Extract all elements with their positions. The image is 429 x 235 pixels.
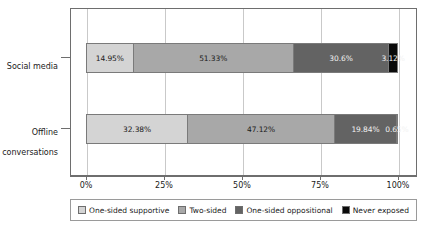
bar-value-label: 14.95% <box>96 54 124 63</box>
legend-swatch-icon <box>342 206 350 214</box>
legend-label: One-sided oppositional <box>246 206 332 215</box>
bar-segment-social-media-one-sided-supportive[interactable]: 14.95% <box>86 43 133 73</box>
y-tick-mark-offline <box>61 128 70 129</box>
bar-segment-social-media-one-sided-oppositional[interactable]: 30.6% <box>293 43 388 73</box>
legend-swatch-icon <box>178 206 186 214</box>
y-tick-mark-social-media <box>61 57 70 58</box>
x-tick-mark-50 <box>242 176 243 180</box>
x-tick-label-25: 25% <box>155 181 173 190</box>
gridline-100 <box>399 9 400 175</box>
legend-label: Never exposed <box>353 206 409 215</box>
bar-value-label: 0.65% <box>385 125 408 134</box>
x-tick-mark-100 <box>398 176 399 180</box>
gridline-50 <box>243 9 244 175</box>
bar-value-label: 30.6% <box>329 54 352 63</box>
legend-item-never-exposed[interactable]: Never exposed <box>342 206 409 215</box>
legend-label: One-sided supportive <box>89 206 169 215</box>
bar-row-offline-conversations[interactable]: 32.38% 47.12% 19.84% 0.65% <box>86 114 398 144</box>
x-tick-label-0: 0% <box>80 181 93 190</box>
legend-label: Two-sided <box>189 206 226 215</box>
x-tick-label-75: 75% <box>311 181 329 190</box>
bar-segment-offline-one-sided-supportive[interactable]: 32.38% <box>86 114 187 144</box>
bar-segment-social-media-never-exposed[interactable]: 3.12% <box>388 43 398 73</box>
bar-value-label: 51.33% <box>199 54 227 63</box>
bar-segment-offline-never-exposed[interactable]: 0.65% <box>396 114 398 144</box>
bar-value-label: 19.84% <box>351 125 379 134</box>
stacked-bar-chart: Social media Offline conversations 14.95… <box>0 0 429 235</box>
bar-value-label: 32.38% <box>123 125 151 134</box>
legend-item-one-sided-oppositional[interactable]: One-sided oppositional <box>235 206 332 215</box>
gridline-0 <box>87 9 88 175</box>
bar-segment-social-media-two-sided[interactable]: 51.33% <box>133 43 293 73</box>
bar-value-label: 3.12% <box>381 54 404 63</box>
legend-item-one-sided-supportive[interactable]: One-sided supportive <box>78 206 169 215</box>
legend-swatch-icon <box>235 206 243 214</box>
x-tick-mark-75 <box>320 176 321 180</box>
legend: One-sided supportive Two-sided One-sided… <box>70 199 417 221</box>
y-axis-label-offline: Offline conversations <box>0 118 58 168</box>
x-tick-mark-0 <box>86 176 87 180</box>
bar-row-social-media[interactable]: 14.95% 51.33% 30.6% 3.12% <box>86 43 398 73</box>
gridline-25 <box>165 9 166 175</box>
y-axis-label-social-media-text: Social media <box>7 62 58 71</box>
x-tick-mark-25 <box>164 176 165 180</box>
bar-value-label: 47.12% <box>247 125 275 134</box>
bar-segment-offline-two-sided[interactable]: 47.12% <box>187 114 334 144</box>
x-axis-line <box>70 176 417 177</box>
legend-item-two-sided[interactable]: Two-sided <box>178 206 226 215</box>
legend-swatch-icon <box>78 206 86 214</box>
y-axis-label-offline-line2: conversations <box>0 148 58 158</box>
x-tick-label-50: 50% <box>233 181 251 190</box>
plot-area <box>70 8 417 176</box>
y-axis-label-offline-line1: Offline <box>0 128 58 138</box>
gridline-75 <box>321 9 322 175</box>
y-axis-label-social-media: Social media <box>0 52 58 72</box>
x-tick-label-100: 100% <box>387 181 410 190</box>
